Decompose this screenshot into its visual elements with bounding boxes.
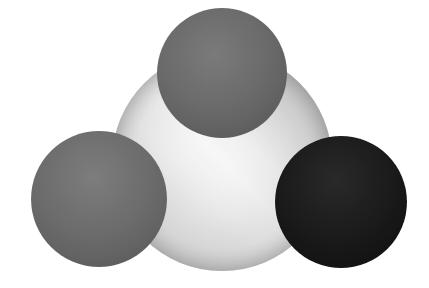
top-sphere xyxy=(157,8,287,138)
right-sphere xyxy=(275,136,407,268)
left-sphere xyxy=(31,131,167,267)
spheres-illustration xyxy=(0,0,429,288)
figure-canvas xyxy=(0,0,429,288)
